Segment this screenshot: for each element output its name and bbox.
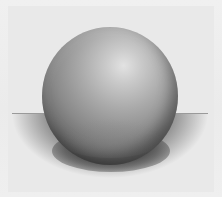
- reflected-light: [58, 118, 162, 158]
